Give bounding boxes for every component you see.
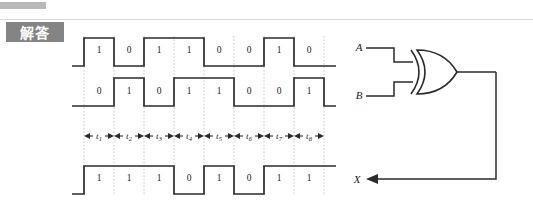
time-slot-4: t4	[174, 129, 204, 143]
time-slot-8: t8	[294, 129, 324, 143]
time-slot-1: t1	[84, 129, 114, 143]
xor-circuit: A B X	[353, 41, 496, 185]
digit-a-1: 1	[97, 45, 102, 55]
digit-x-1: 1	[97, 173, 102, 183]
digit-x-4: 0	[187, 173, 192, 183]
digit-b-6: 0	[247, 86, 252, 96]
wire-input-a	[366, 48, 413, 62]
output-arrowhead	[366, 174, 378, 184]
time-slot-3: t3	[144, 129, 174, 143]
digit-a-8: 0	[307, 45, 312, 55]
digit-a-4: 1	[187, 45, 192, 55]
digit-a-6: 0	[247, 45, 252, 55]
digit-a-3: 1	[157, 45, 162, 55]
timing-diagram-figure: 1 0 1 1 0 0 1 0 0 1 0 1 1 0 0 1	[0, 0, 533, 214]
xor-gate-body	[417, 50, 457, 94]
circuit-input-b-label: B	[356, 89, 363, 101]
digit-a-5: 0	[217, 45, 222, 55]
waveform-x	[72, 166, 336, 194]
digit-b-3: 0	[157, 86, 162, 96]
digit-x-2: 1	[127, 173, 132, 183]
digit-x-7: 1	[277, 173, 282, 183]
xor-gate-extra-arc	[411, 50, 419, 94]
wire-input-b	[366, 82, 413, 96]
digit-b-7: 0	[277, 86, 282, 96]
digit-a-7: 1	[277, 45, 282, 55]
digit-b-4: 1	[187, 86, 192, 96]
time-slot-2: t2	[114, 129, 144, 143]
circuit-input-a-label: A	[355, 41, 363, 53]
digit-x-6: 0	[247, 173, 252, 183]
circuit-output-x-label: X	[353, 173, 362, 185]
waveform-a	[72, 38, 336, 66]
time-slot-6: t6	[234, 129, 264, 143]
digit-x-3: 1	[157, 173, 162, 183]
digit-a-2: 0	[127, 45, 132, 55]
wire-output-route	[374, 72, 496, 179]
digit-b-2: 1	[127, 86, 132, 96]
digit-b-1: 0	[97, 86, 102, 96]
digit-x-8: 1	[307, 173, 312, 183]
time-slot-5: t5	[204, 129, 234, 143]
time-slot-axis: t1 t2 t3	[84, 129, 324, 143]
digit-b-8: 1	[307, 86, 312, 96]
digit-b-5: 1	[217, 86, 222, 96]
digit-x-5: 1	[217, 173, 222, 183]
time-slot-7: t7	[264, 129, 294, 143]
